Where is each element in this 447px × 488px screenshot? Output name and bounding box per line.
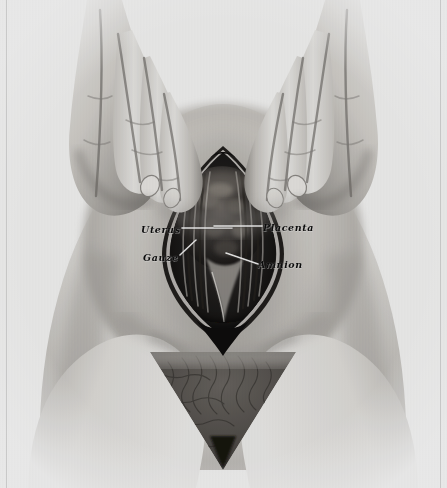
- label-placenta: Placenta: [263, 222, 314, 233]
- plate-edge-right: [440, 0, 441, 488]
- illustration-plate: Uterus Gauze Placenta Amnion: [0, 0, 447, 488]
- label-uterus: Uterus: [141, 224, 181, 235]
- plate-edge-left: [6, 0, 7, 488]
- anatomical-labels: Uterus Gauze Placenta Amnion: [0, 0, 447, 488]
- label-amnion: Amnion: [258, 259, 303, 270]
- label-gauze: Gauze: [143, 252, 179, 263]
